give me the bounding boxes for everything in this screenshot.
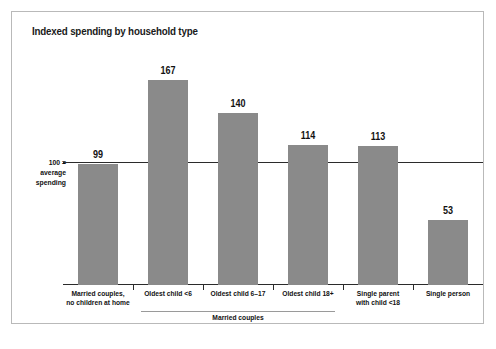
bar-group: 99 xyxy=(63,52,133,285)
reference-label-line-3: spending xyxy=(27,178,66,188)
bar-group: 114 xyxy=(273,52,343,285)
plot-area: 9916714011411353 xyxy=(63,52,483,285)
bar-group: 140 xyxy=(203,52,273,285)
bar[interactable] xyxy=(428,220,468,285)
category-label-line: Married couples, xyxy=(59,289,137,298)
category-label-line: Single parent xyxy=(339,289,417,298)
group-bracket-label: Married couples xyxy=(148,313,328,322)
category-label-line: Oldest child 6–17 xyxy=(199,289,277,298)
category-label: Single person xyxy=(409,289,487,298)
category-label-line: Oldest child 18+ xyxy=(269,289,347,298)
bar[interactable] xyxy=(288,145,328,285)
category-label: Oldest child 6–17 xyxy=(199,289,277,298)
category-label: Single parentwith child <18 xyxy=(339,289,417,308)
bar-value-label: 113 xyxy=(347,131,410,142)
chart-figure-frame: Indexed spending by household type 99167… xyxy=(11,11,484,324)
bar[interactable] xyxy=(148,80,188,285)
bar-group: 53 xyxy=(413,52,483,285)
bar-value-label: 53 xyxy=(417,205,480,216)
reference-line-label: 100 = average spending xyxy=(27,158,66,187)
bar[interactable] xyxy=(358,146,398,285)
bar-value-label: 140 xyxy=(207,98,270,109)
bar-group: 113 xyxy=(343,52,413,285)
category-label-line: Single person xyxy=(409,289,487,298)
bar[interactable] xyxy=(78,164,118,285)
bar-value-label: 99 xyxy=(67,149,130,160)
category-label: Oldest child 18+ xyxy=(269,289,347,298)
category-label: Oldest child <6 xyxy=(129,289,207,298)
category-label-line: Oldest child <6 xyxy=(129,289,207,298)
category-label-line: no children at home xyxy=(59,298,137,307)
bar-value-label: 167 xyxy=(137,65,200,76)
reference-label-line-2: average xyxy=(27,168,66,178)
category-label: Married couples,no children at home xyxy=(59,289,137,308)
bar[interactable] xyxy=(218,113,258,285)
chart-title: Indexed spending by household type xyxy=(32,25,198,37)
reference-label-line-1: 100 = xyxy=(27,158,66,168)
group-bracket-line xyxy=(141,311,335,312)
bar-value-label: 114 xyxy=(277,130,340,141)
category-label-line: with child <18 xyxy=(339,298,417,307)
bar-group: 167 xyxy=(133,52,203,285)
